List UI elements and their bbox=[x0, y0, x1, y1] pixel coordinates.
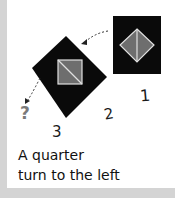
caption-line-1: A quarter bbox=[18, 145, 120, 165]
question-mark-icon: ? bbox=[20, 103, 30, 123]
tile-1 bbox=[113, 16, 161, 74]
puzzle-card: 1 2 3 ? A quarter turn to the left bbox=[7, 0, 175, 188]
rotation-illustration bbox=[7, 0, 175, 145]
tile-2 bbox=[32, 36, 107, 118]
step-label-3: 3 bbox=[52, 123, 62, 141]
arrow-1-to-2 bbox=[81, 31, 108, 45]
arrow-2-to-3 bbox=[25, 78, 40, 104]
step-label-1: 1 bbox=[139, 86, 151, 106]
caption: A quarter turn to the left bbox=[18, 145, 120, 185]
caption-line-2: turn to the left bbox=[18, 165, 120, 185]
